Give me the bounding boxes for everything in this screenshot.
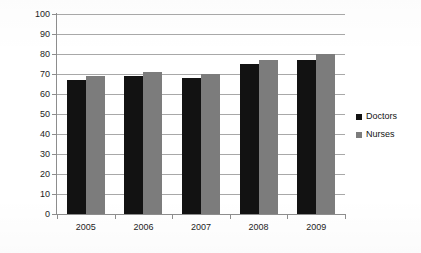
- legend-swatch-doctors: [356, 114, 362, 120]
- x-tick-2005: [115, 214, 116, 219]
- y-tick-label-30: 30: [8, 150, 50, 159]
- y-tick-label-50: 50: [8, 110, 50, 119]
- x-tick-label-2008: 2008: [229, 222, 289, 232]
- bar-group-2009: [297, 14, 335, 214]
- x-tick-origin: [57, 214, 58, 219]
- y-tick-label-20: 20: [8, 170, 50, 179]
- bar-doctors-2007[interactable]: [182, 78, 201, 214]
- y-tick-label-10: 10: [8, 190, 50, 199]
- legend-item-nurses[interactable]: Nurses: [356, 130, 420, 139]
- x-axis-line: [56, 214, 345, 215]
- bar-group-2008: [240, 14, 278, 214]
- y-axis-line: [56, 13, 57, 215]
- bar-nurses-2007[interactable]: [201, 74, 220, 214]
- x-tick-2007: [230, 214, 231, 219]
- legend-item-doctors[interactable]: Doctors: [356, 112, 420, 121]
- y-tick-label-100: 100: [8, 10, 50, 19]
- y-tick-label-0: 0: [8, 210, 50, 219]
- legend: Doctors Nurses: [356, 112, 420, 148]
- bar-group-2005: [67, 14, 105, 214]
- legend-label-nurses: Nurses: [366, 130, 395, 139]
- y-tick-label-80: 80: [8, 50, 50, 59]
- bar-nurses-2005[interactable]: [86, 76, 105, 214]
- y-tick-label-90: 90: [8, 30, 50, 39]
- bar-doctors-2006[interactable]: [124, 76, 143, 214]
- y-tick-label-40: 40: [8, 130, 50, 139]
- bar-chart: 1009080706050403020100 20052006200720082…: [0, 0, 421, 253]
- x-tick-label-2009: 2009: [286, 222, 346, 232]
- bar-nurses-2006[interactable]: [143, 72, 162, 214]
- x-tick-2008: [287, 214, 288, 219]
- bar-group-2006: [124, 14, 162, 214]
- bar-nurses-2009[interactable]: [316, 54, 335, 214]
- x-tick-label-2006: 2006: [113, 222, 173, 232]
- y-tick-label-60: 60: [8, 90, 50, 99]
- bar-group-2007: [182, 14, 220, 214]
- plot-area: [57, 14, 345, 214]
- legend-swatch-nurses: [356, 132, 362, 138]
- x-tick-label-2007: 2007: [171, 222, 231, 232]
- bar-doctors-2009[interactable]: [297, 60, 316, 214]
- legend-label-doctors: Doctors: [366, 112, 397, 121]
- bar-doctors-2005[interactable]: [67, 80, 86, 214]
- x-tick-label-2005: 2005: [56, 222, 116, 232]
- x-tick-2006: [172, 214, 173, 219]
- bar-doctors-2008[interactable]: [240, 64, 259, 214]
- y-tick-label-70: 70: [8, 70, 50, 79]
- bar-nurses-2008[interactable]: [259, 60, 278, 214]
- x-tick-2009: [345, 214, 346, 219]
